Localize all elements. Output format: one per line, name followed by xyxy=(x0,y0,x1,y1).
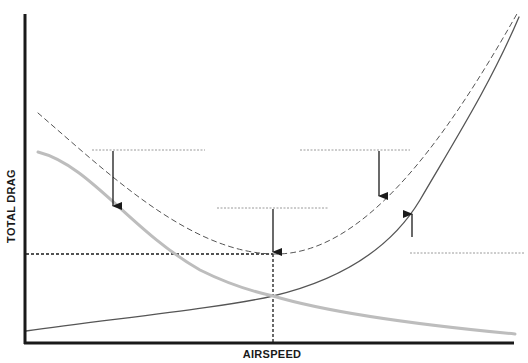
level-lines xyxy=(92,150,525,253)
x-axis-label: AIRSPEED xyxy=(243,348,302,360)
total-drag-curve xyxy=(38,12,518,254)
arrows xyxy=(113,151,412,252)
induced-drag-curve xyxy=(38,152,515,334)
parasite-drag-curve xyxy=(26,17,519,331)
drag-chart: AIRSPEED TOTAL DRAG xyxy=(0,0,528,363)
y-axis-label: TOTAL DRAG xyxy=(5,169,17,243)
reference-lines xyxy=(26,254,273,343)
